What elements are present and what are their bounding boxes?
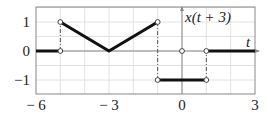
y-tick-label: 0 [23, 43, 31, 59]
x-tick-label: 3 [251, 97, 259, 113]
y-tick-label: 1 [23, 14, 31, 30]
x-tick-label: 0 [178, 97, 186, 113]
x-tick-label: − 3 [99, 97, 119, 113]
y-tick-label: −1 [14, 72, 30, 88]
x-tick-label: − 6 [26, 97, 46, 113]
signal-chart: − 6− 303 10−1 x(t + 3) t [0, 0, 271, 117]
curve-label: x(t + 3) [184, 9, 231, 26]
x-tick-labels: − 6− 303 [26, 97, 259, 113]
y-tick-labels: 10−1 [14, 14, 30, 88]
